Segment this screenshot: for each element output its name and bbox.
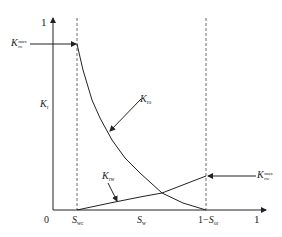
y-axis-label: Kr <box>40 99 49 111</box>
y-axis-max-label: 1 <box>41 17 47 28</box>
y-axis-label-sub: r <box>47 104 49 110</box>
kro-label-main: K <box>140 93 147 104</box>
krw-label-sub: rw <box>109 176 115 182</box>
krw-pointer-arrow <box>108 183 117 201</box>
kro-label-sub: ro <box>147 99 152 105</box>
sor-label: 1−Sor <box>198 215 218 227</box>
kro-curve <box>77 44 206 210</box>
x-axis-max-label: 1 <box>254 214 260 225</box>
swc-label: Swc <box>72 215 83 227</box>
relperm-diagram <box>0 0 282 237</box>
sw-label: Sw <box>137 215 146 227</box>
krw-max-sub: rw <box>264 176 273 181</box>
swc-sub: wc <box>77 220 83 226</box>
sor-prefix: 1− <box>198 214 209 225</box>
krw-max-main: K <box>257 169 264 180</box>
sw-sub: w <box>142 220 146 226</box>
kro-max-label: Kmaxro <box>11 38 27 49</box>
krw-curve <box>77 176 206 210</box>
kro-curve-label: Kro <box>140 94 151 106</box>
krw-max-label: Kmaxrw <box>257 170 273 181</box>
origin-label: 0 <box>44 215 49 225</box>
krw-curve-label: Krw <box>102 171 114 183</box>
y-axis-label-main: K <box>40 98 47 109</box>
kro-pointer-arrow <box>110 99 141 131</box>
kro-max-sub: ro <box>18 44 27 49</box>
kro-max-main: K <box>11 37 18 48</box>
sor-sub: or <box>214 220 219 226</box>
krw-label-main: K <box>102 170 109 181</box>
